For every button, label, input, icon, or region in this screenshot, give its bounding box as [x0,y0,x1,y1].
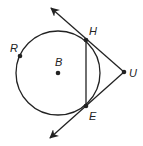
point-h [84,38,89,43]
point-b [56,71,61,76]
point-r [18,54,23,59]
label-h: H [89,25,97,37]
point-e [84,104,89,109]
label-e: E [89,110,97,122]
point-u [122,70,127,75]
label-r: R [10,42,18,54]
label-u: U [129,67,137,79]
geometry-diagram: R B H E U [0,0,143,146]
label-b: B [55,56,62,68]
